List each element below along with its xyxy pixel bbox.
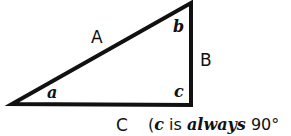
angle-label-right: c [174,84,184,100]
angle-label-top: b [173,19,184,35]
right-triangle [12,3,191,105]
side-label-base: C [116,117,128,134]
caption-value: 90° [246,115,279,134]
side-label-hypotenuse: A [91,29,103,46]
angle-label-left: a [47,85,57,101]
caption-always: always [187,115,246,134]
caption-is: is [164,115,187,134]
caption: (c is always 90° [148,117,279,133]
caption-var: c [154,115,164,134]
side-label-vertical: B [200,52,212,69]
